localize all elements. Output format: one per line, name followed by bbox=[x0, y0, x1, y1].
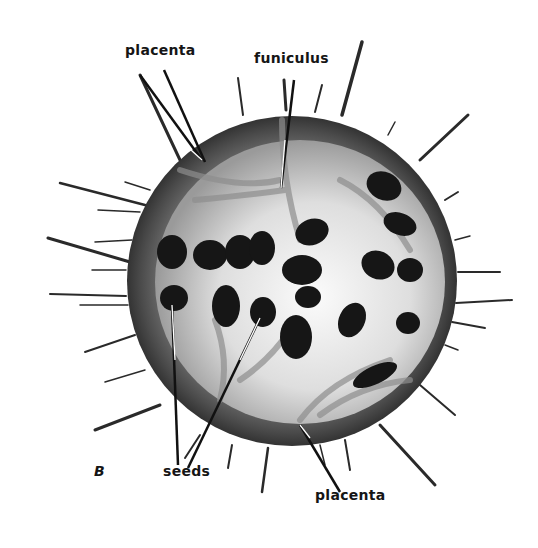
label-placenta-bottom: placenta bbox=[315, 487, 386, 503]
fruit-diagram: placenta funiculus seeds placenta B bbox=[0, 0, 538, 548]
label-funiculus: funiculus bbox=[254, 50, 329, 66]
panel-letter: B bbox=[94, 463, 105, 479]
label-seeds: seeds bbox=[163, 463, 210, 479]
fruit-illustration bbox=[0, 0, 538, 548]
label-placenta-top: placenta bbox=[125, 42, 196, 58]
